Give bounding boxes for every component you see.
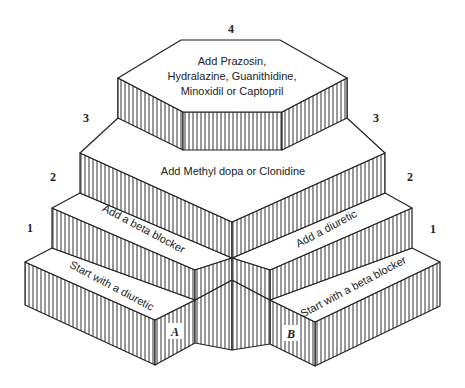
level-1-number-right: 1 [430,222,436,236]
path-a-marker: A [170,325,179,339]
level-4-number: 4 [228,22,234,36]
step3-label: Add Methyl dopa or Clonidine [161,165,305,177]
level-2-number-right: 2 [407,170,413,184]
step4-line2: Hydralazine, Guanithidine, [167,70,296,82]
level4-front-face [183,112,282,150]
step4-line3: Minoxidil or Captopril [181,85,284,97]
step4-line1: Add Prazosin, [198,55,266,67]
path-b-marker: B [286,327,295,341]
stepped-care-diagram: 4 3 3 2 2 1 1 Add Prazosin, Hydralazine,… [0,0,465,388]
level-3-number-right: 3 [373,111,379,125]
level-2-number-left: 2 [50,170,56,184]
level-1-number-left: 1 [27,221,33,235]
level-3-number-left: 3 [83,111,89,125]
diagram-canvas: 4 3 3 2 2 1 1 Add Prazosin, Hydralazine,… [0,0,465,388]
